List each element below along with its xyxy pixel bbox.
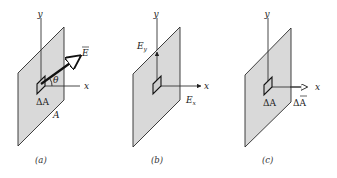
ey-label: Ey <box>136 41 148 53</box>
caption-a: (a) <box>35 155 47 165</box>
caption-c: (c) <box>262 155 273 165</box>
y-axis-label: y <box>37 9 44 19</box>
caption-b: (b) <box>151 155 163 165</box>
panel-a: y x E θ ΔA A (a) <box>18 9 89 165</box>
flux-diagram-figure: y x E θ ΔA A (a) y x Ey Ex (b) y x ΔA ΔA <box>0 0 337 178</box>
x-axis-label: x <box>315 82 320 92</box>
y-axis-label: y <box>264 9 271 19</box>
delta-a-label: ΔA <box>263 98 276 108</box>
theta-label: θ <box>53 75 59 85</box>
area-vector-label: ΔA <box>293 98 306 108</box>
e-vector-label: E <box>81 48 89 58</box>
x-axis-label: x <box>204 81 209 91</box>
y-axis-label: y <box>153 9 160 19</box>
ex-label: Ex <box>185 95 197 106</box>
plane-area-label: A <box>52 110 60 120</box>
delta-a-label: ΔA <box>36 97 49 107</box>
panel-b: y x Ey Ex (b) <box>133 9 209 165</box>
x-axis-label: x <box>84 81 89 91</box>
panel-c: y x ΔA ΔA (c) <box>245 9 320 165</box>
